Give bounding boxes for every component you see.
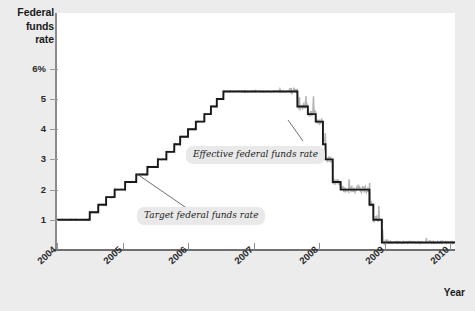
y-tick-label-2: 2 — [12, 184, 46, 195]
x-axis-title: Year — [444, 287, 465, 298]
y-axis-title-line-3: rate — [4, 33, 54, 47]
x-tick-label-2004: 2004 — [35, 244, 58, 266]
x-tick-2010 — [450, 243, 451, 250]
y-tick-1 — [50, 220, 58, 221]
y-axis-line — [55, 13, 57, 251]
x-tick-2005 — [123, 243, 124, 250]
y-tick-label-1: 1 — [12, 214, 46, 225]
x-tick-2009 — [385, 243, 386, 250]
chart-figure: Federal funds rate 123456% 2004200520062… — [0, 0, 475, 311]
x-tick-2007 — [254, 243, 255, 250]
y-tick-3 — [50, 159, 58, 160]
x-tick-2006 — [188, 243, 189, 250]
y-tick-4 — [50, 129, 58, 130]
y-tick-5 — [50, 99, 58, 100]
y-axis-title: Federal funds rate — [4, 6, 54, 47]
y-tick-6 — [50, 69, 58, 70]
x-tick-2004 — [57, 243, 58, 250]
y-axis-title-line-2: funds — [4, 20, 54, 34]
y-tick-label-5: 5 — [12, 93, 46, 104]
annotation-effective-rate: Effective federal funds rate — [186, 146, 325, 164]
y-tick-label-3: 3 — [12, 153, 46, 164]
y-tick-label-4: 4 — [12, 123, 46, 134]
y-axis-title-line-1: Federal — [4, 6, 54, 20]
annotation-target-rate: Target federal funds rate — [137, 207, 265, 225]
y-tick-2 — [50, 190, 58, 191]
x-tick-2008 — [319, 243, 320, 250]
y-tick-label-6: 6% — [12, 63, 46, 74]
